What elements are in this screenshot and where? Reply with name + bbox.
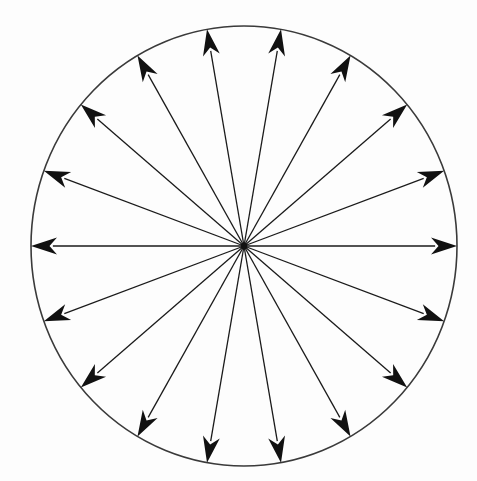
arrow-head [138, 410, 158, 437]
arrow-head [330, 55, 350, 82]
arrow-head [382, 364, 407, 387]
arrow-shaft [64, 246, 244, 314]
radial-arrow [244, 238, 457, 255]
radial-arrow [81, 105, 244, 246]
radial-arrow [44, 246, 244, 321]
radial-arrow [44, 171, 244, 246]
radial-arrow [244, 246, 407, 387]
arrow-shaft [64, 178, 244, 246]
radial-diagram-figure [0, 0, 477, 481]
radial-arrow [244, 171, 444, 246]
radial-arrow [244, 105, 407, 246]
center-point-layer [241, 243, 247, 249]
arrow-shaft [244, 119, 391, 246]
arrow-shaft [244, 178, 424, 246]
arrow-shaft [97, 246, 244, 373]
radial-arrow [244, 246, 444, 321]
arrow-shaft [244, 246, 424, 314]
arrow-shaft [97, 119, 244, 246]
radial-arrow [203, 246, 244, 463]
arrow-head [330, 410, 350, 437]
arrow-head [81, 105, 106, 128]
center-point [241, 243, 247, 249]
arrow-head [81, 364, 106, 387]
arrow-head [138, 55, 158, 82]
radial-arrow [31, 238, 244, 255]
radial-arrow [81, 246, 244, 387]
radial-arrow [244, 29, 285, 246]
radial-arrow [244, 246, 285, 463]
arrow-shaft [244, 246, 391, 373]
vector-diagram-canvas [0, 0, 477, 481]
radial-arrow [203, 29, 244, 246]
arrow-head [382, 105, 407, 128]
